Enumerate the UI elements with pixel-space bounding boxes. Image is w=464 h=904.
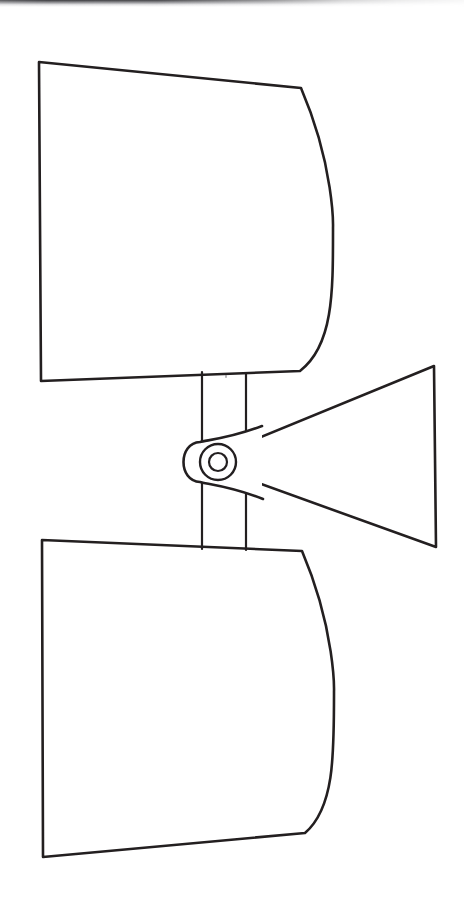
drawing-page — [0, 0, 464, 904]
technical-figure — [0, 0, 464, 904]
lower-panel-outline — [42, 540, 334, 857]
lower-panel — [42, 540, 334, 857]
pivot-boss — [183, 426, 263, 499]
upper-panel-outline — [39, 62, 333, 381]
upper-panel — [39, 62, 333, 381]
